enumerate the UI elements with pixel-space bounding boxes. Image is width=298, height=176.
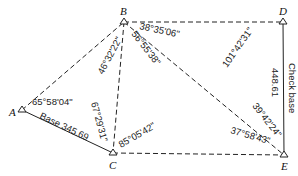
angle-label-b-abc: 46°32'22" [95,35,124,76]
angle-label-c-acb: 67°29'31" [89,101,110,143]
station-label-e: E [280,160,288,172]
angle-label-c-bce: 85°05'42" [117,120,158,150]
angle-label-a: 65°58'04" [32,96,73,107]
station-label-d: D [278,5,287,17]
diagram-canvas: A B C D E 65°58'04" 46°32'22" 56°55'38" … [0,0,298,176]
line-c-e [113,153,284,155]
base-length: 345.69 [60,120,91,142]
triangulation-diagram: A B C D E 65°58'04" 46°32'22" 56°55'38" … [0,0,298,176]
base-label: Base [38,110,62,129]
station-b-icon [120,18,128,24]
check-base-label: Check base [287,63,298,113]
angle-label-d-bde: 101°42'31" [220,25,255,69]
station-e-icon [280,151,288,157]
station-a-icon [18,106,26,112]
station-label-a: A [8,106,16,118]
check-base-line-d-e [283,22,284,155]
check-base-length: 448.61 [270,68,281,97]
station-label-b: B [120,5,127,17]
station-d-icon [279,18,287,24]
station-label-c: C [109,159,117,171]
